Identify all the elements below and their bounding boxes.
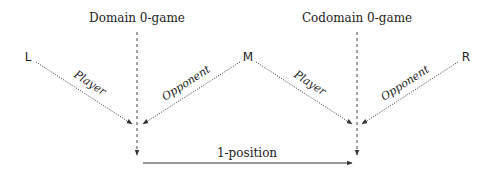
label-middle-player: Player [291, 67, 329, 98]
node-right: R [462, 50, 470, 64]
diagram-canvas: Domain 0-game Codomain 0-game L M R Play… [0, 0, 493, 176]
label-one-position: 1-position [217, 146, 277, 160]
node-middle: M [243, 50, 253, 64]
label-right-opponent: Opponent [379, 62, 433, 103]
codomain-title: Codomain 0-game [302, 11, 412, 25]
domain-title: Domain 0-game [89, 11, 185, 25]
node-left: L [25, 50, 32, 64]
label-middle-opponent: Opponent [160, 62, 214, 103]
label-left-player: Player [71, 67, 109, 98]
